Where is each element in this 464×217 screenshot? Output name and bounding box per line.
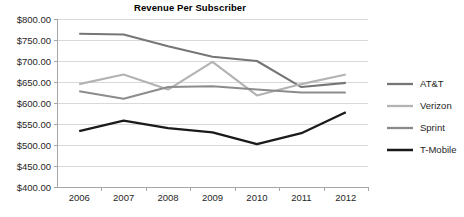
y-axis-tick-labels: $400.00$450.00$500.00$550.00$600.00$650.… — [17, 14, 51, 193]
series-line-verizon — [79, 62, 346, 96]
y-tick-label: $450.00 — [17, 161, 51, 172]
axes — [54, 19, 369, 191]
series-line-at-t — [79, 34, 346, 87]
x-tick-label: 2010 — [246, 192, 267, 203]
y-tick-label: $400.00 — [17, 182, 51, 193]
legend-label-t-mobile: T-Mobile — [420, 144, 456, 155]
y-tick-label: $750.00 — [17, 35, 51, 46]
y-tick-label: $700.00 — [17, 56, 51, 67]
y-tick-label: $800.00 — [17, 14, 51, 25]
legend-label-sprint: Sprint — [420, 122, 445, 133]
line-chart: $400.00$450.00$500.00$550.00$600.00$650.… — [0, 0, 464, 217]
x-tick-label: 2007 — [113, 192, 134, 203]
data-series — [79, 34, 346, 144]
y-tick-label: $550.00 — [17, 119, 51, 130]
series-line-t-mobile — [79, 112, 346, 144]
x-tick-label: 2008 — [158, 192, 179, 203]
legend-label-at-t: AT&T — [420, 78, 444, 89]
y-tick-label: $500.00 — [17, 140, 51, 151]
legend-label-verizon: Verizon — [420, 100, 452, 111]
y-tick-label: $600.00 — [17, 98, 51, 109]
y-tick-label: $650.00 — [17, 77, 51, 88]
chart-container: Revenue Per Subscriber $400.00$450.00$50… — [0, 0, 464, 217]
series-line-sprint — [79, 86, 346, 99]
x-axis-tick-labels: 2006200720082009201020112012 — [69, 192, 357, 203]
x-tick-label: 2009 — [202, 192, 223, 203]
x-tick-label: 2011 — [291, 192, 311, 203]
x-tick-label: 2006 — [69, 192, 90, 203]
chart-legend: AT&TVerizonSprintT-Mobile — [387, 78, 456, 155]
x-tick-label: 2012 — [335, 192, 356, 203]
